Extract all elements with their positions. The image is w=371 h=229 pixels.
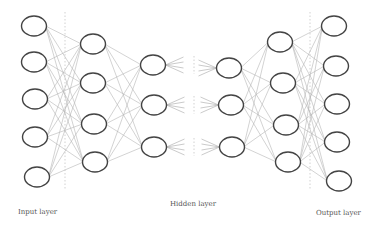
edge (47, 124, 83, 137)
edge (292, 42, 325, 66)
output-node (322, 16, 347, 36)
edge (292, 42, 326, 104)
output-node (325, 132, 350, 152)
hidden-n-1-node (217, 58, 242, 78)
hidden-1-node (83, 152, 108, 172)
hidden-n-node (276, 152, 301, 172)
edge (292, 26, 323, 42)
hidden-n-1-node (219, 95, 244, 115)
hidden-2-node (142, 95, 167, 115)
output-layer-label: Output layer (316, 209, 361, 217)
hidden-layer-label: Hidden layer (170, 200, 216, 208)
hidden-1-node (82, 114, 107, 134)
input-layer-label: Input layer (18, 208, 57, 216)
output-node (325, 94, 350, 114)
edge (295, 26, 323, 83)
input-node (25, 167, 50, 187)
hidden-n-node (274, 115, 299, 135)
edge (300, 26, 323, 162)
neuron-nodes (22, 16, 352, 191)
edge (106, 124, 143, 147)
edge (243, 105, 277, 162)
edge (107, 147, 143, 162)
neural-network-diagram (0, 0, 371, 229)
output-node (327, 171, 352, 191)
hidden-2-node (141, 55, 166, 75)
input-node (22, 16, 47, 36)
hidden-1-node (81, 34, 106, 54)
edge (243, 105, 275, 125)
hidden-2-node (142, 137, 167, 157)
edge (49, 124, 83, 177)
input-node (23, 89, 48, 109)
hidden-n-node (268, 32, 293, 52)
hidden-n-node (271, 73, 296, 93)
edge (105, 44, 142, 65)
edge (241, 42, 269, 68)
input-node (23, 127, 48, 147)
input-node (22, 52, 47, 72)
gap-connection-stubs (166, 56, 220, 156)
edge (46, 26, 83, 124)
hidden-1-node (81, 73, 106, 93)
edge (49, 162, 84, 177)
hidden-n-1-node (220, 137, 245, 157)
edge (295, 83, 326, 142)
output-node (324, 56, 349, 76)
